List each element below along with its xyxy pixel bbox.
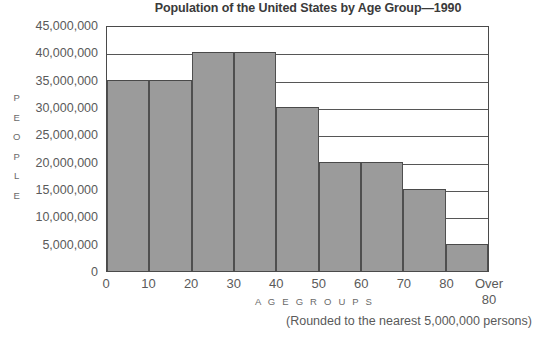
x-axis-tick-label-line2: 80: [459, 292, 519, 308]
y-axis-tick-label: 30,000,000: [0, 101, 98, 115]
bars-layer: [107, 27, 488, 271]
x-axis-tick-label: Over80: [459, 276, 519, 308]
population-bar-chart: Population of the United States by Age G…: [0, 0, 538, 340]
chart-note: (Rounded to the nearest 5,000,000 person…: [0, 314, 532, 328]
plot-area: [106, 26, 489, 272]
y-axis-tick-label: 20,000,000: [0, 156, 98, 170]
y-axis-tick-labels: 45,000,00040,000,00035,000,00030,000,000…: [0, 0, 98, 300]
y-axis-tick-label: 5,000,000: [0, 238, 98, 252]
x-axis-title: A G E G R O U P S: [255, 296, 374, 307]
bar[interactable]: [149, 80, 191, 271]
bar[interactable]: [107, 80, 149, 271]
y-axis-tick-label: 25,000,000: [0, 128, 98, 142]
bar[interactable]: [361, 162, 403, 271]
bar[interactable]: [192, 52, 234, 271]
bar[interactable]: [276, 107, 318, 271]
y-axis-tick-label: 15,000,000: [0, 183, 98, 197]
chart-title: Population of the United States by Age G…: [110, 1, 506, 15]
y-axis-tick-label: 40,000,000: [0, 46, 98, 60]
bar[interactable]: [403, 189, 445, 271]
bar[interactable]: [319, 162, 361, 271]
y-axis-tick-label: 10,000,000: [0, 210, 98, 224]
bar[interactable]: [234, 52, 276, 271]
bar[interactable]: [446, 244, 488, 271]
y-axis-tick-label: 35,000,000: [0, 74, 98, 88]
y-axis-tick-label: 45,000,000: [0, 19, 98, 33]
